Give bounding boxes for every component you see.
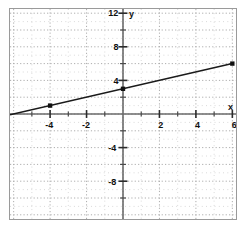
graph-figure: -4-22461284-4-8xy [0,0,246,229]
data-series-layer [10,9,236,219]
plot-area: -4-22461284-4-8xy [9,8,237,220]
